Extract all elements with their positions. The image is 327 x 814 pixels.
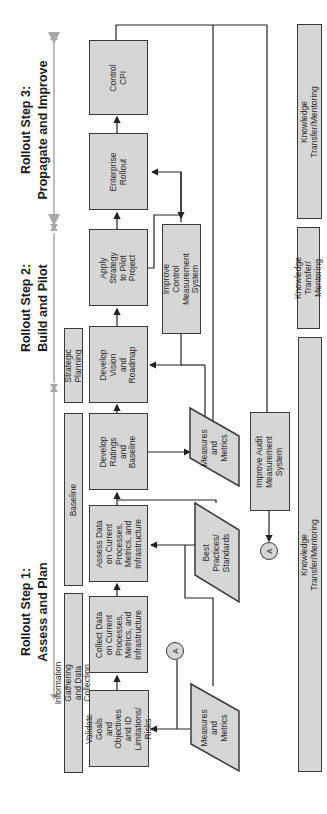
- process-label: Control CPI: [109, 64, 129, 91]
- process-assess-data: Assess Data on Current Processes, Metric…: [89, 505, 148, 582]
- phase-label: Baseline: [69, 483, 79, 516]
- phase-label: Information Gathering and Data Collectio…: [54, 662, 93, 705]
- phase-label: Strategic Planning: [64, 349, 84, 383]
- improve-audit-measurement-box: Improve Audit Measurement System: [250, 412, 290, 511]
- process-develop-ratings: Develop Ratings and Baseline: [89, 413, 148, 490]
- process-develop-vision: Develop Vision and Roadmap: [89, 326, 148, 403]
- measures-metrics-upper-label: Measures and Metrics: [200, 429, 229, 466]
- process-label: Develop Ratings and Baseline: [99, 435, 138, 468]
- improve-control-label: Improve Control Measurement System: [162, 253, 201, 305]
- rollout-step-2-label: Rollout Step 2: Build and Pilot: [18, 264, 52, 352]
- process-label: Develop Vision and Roadmap: [99, 346, 138, 383]
- measures-metrics-lower-label: Measures and Metrics: [200, 709, 229, 746]
- process-validate-goals: Validate Goals and Objectives and ID Lim…: [89, 690, 149, 767]
- rollout-step-1-label: Rollout Step 1: Assess and Plan: [18, 562, 52, 661]
- phase-baseline: Baseline: [64, 413, 83, 586]
- knowledge-transfer-step3: Knowledge Transfer/Mentoring: [297, 24, 322, 219]
- process-label: Collect Data on Current Processes, Metri…: [94, 609, 143, 659]
- improve-control-measurement-box: Improve Control Measurement System: [162, 224, 201, 334]
- knowledge-transfer-step1: Knowledge Transfer/Mentoring: [298, 337, 322, 772]
- process-label: Assess Data on Current Processes, Metric…: [94, 518, 143, 568]
- rollout-step-3-label: Rollout Step 3: Propagate and Improve: [18, 61, 52, 200]
- process-collect-data: Collect Data on Current Processes, Metri…: [89, 596, 148, 673]
- knowledge-transfer-label: Knowledge Transfer/Mentoring: [300, 519, 320, 590]
- knowledge-transfer-label: Knowledge Transfer/ Mentoring: [294, 257, 323, 299]
- process-label: Apply Strategy to Pilot Project: [99, 252, 138, 284]
- improve-audit-label: Improve Audit Measurement System: [255, 436, 284, 488]
- connector-label: A: [171, 648, 180, 653]
- phase-strategic-planning: Strategic Planning: [64, 328, 83, 403]
- connector-label: A: [265, 548, 274, 553]
- connector-a-lower: A: [260, 542, 278, 560]
- knowledge-transfer-step2: Knowledge Transfer/ Mentoring: [297, 227, 320, 329]
- process-enterprise-rollout: Enterprise Rollout: [89, 133, 148, 210]
- connector-a-upper: A: [166, 642, 184, 660]
- process-control-cpi: Control CPI: [89, 40, 148, 115]
- process-label: Validate Goals and Objectives and ID Lim…: [85, 707, 153, 750]
- best-practices-label: Best Practices/ Standards: [202, 534, 231, 573]
- knowledge-transfer-label: Knowledge Transfer/Mentoring: [300, 86, 320, 157]
- process-apply-strategy: Apply Strategy to Pilot Project: [89, 229, 148, 306]
- phase-information-gathering: Information Gathering and Data Collectio…: [64, 593, 83, 773]
- process-label: Enterprise Rollout: [109, 152, 129, 191]
